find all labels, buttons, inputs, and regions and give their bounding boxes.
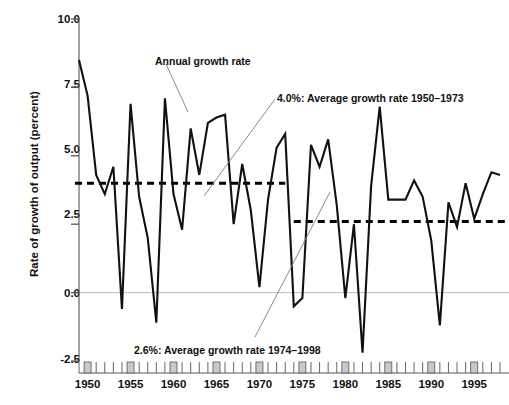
chart-root: Rate of growth of output (percent) 10.0 … (0, 0, 509, 405)
x-tick-label-1990: 1990 (411, 378, 451, 390)
x-axis-tick-major (299, 362, 306, 373)
x-axis-tick-major (256, 362, 263, 373)
x-axis-tick-major (84, 362, 91, 373)
x-axis-tick-major (428, 362, 435, 373)
x-tick-label-1950: 1950 (68, 378, 108, 390)
x-tick-label-1985: 1985 (368, 378, 408, 390)
x-tick-label-1995: 1995 (454, 378, 494, 390)
annotation-average-1974-1998: 2.6%: Average growth rate 1974–1998 (134, 344, 321, 356)
x-tick-label-1965: 1965 (196, 378, 236, 390)
x-tick-label-1955: 1955 (111, 378, 151, 390)
annotation-annual-growth-rate: Annual growth rate (155, 55, 251, 67)
x-tick-label-1960: 1960 (154, 378, 194, 390)
leader-annual-growth-rate (166, 64, 188, 112)
x-tick-label-1975: 1975 (282, 378, 322, 390)
x-axis-tick-major (213, 362, 220, 373)
x-tick-label-1970: 1970 (239, 378, 279, 390)
x-axis-tick-major (471, 362, 478, 373)
x-axis-tick-major (342, 362, 349, 373)
x-axis-tick-major (385, 362, 392, 373)
x-tick-label-1980: 1980 (325, 378, 365, 390)
x-axis-tick-major (170, 362, 177, 373)
annotation-average-1950-1973: 4.0%: Average growth rate 1950–1973 (277, 92, 464, 104)
x-axis-tick-major (127, 362, 134, 373)
